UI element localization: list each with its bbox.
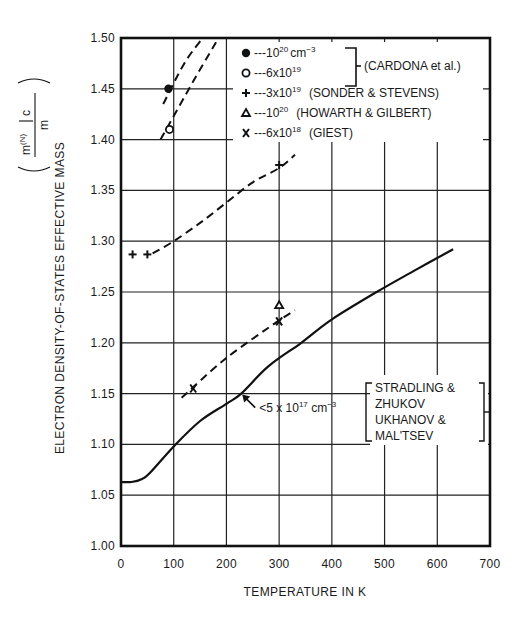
x-tick-labels: 0100200300400500600700 [118,557,501,571]
y-tick-label: 1.40 [90,133,115,147]
y-axis-title: ELECTRON DENSITY-OF-STATES EFFECTIVE MAS… [53,142,67,454]
filled-circle-marker [242,49,250,57]
x-tick-label: 100 [163,557,184,571]
y-tick-label: 1.50 [90,31,115,45]
legend-group-label: (CARDONA et al.) [364,59,461,73]
y-tick-label: 1.20 [90,336,115,350]
effective-mass-chart: 0100200300400500600700 1.001.051.101.151… [0,0,524,625]
x-tick-label: 0 [118,557,125,571]
plus-marker [143,250,151,258]
open-circle-marker [242,69,249,76]
y-axis-formula: m(N)cm [18,79,51,171]
author-line: MAL'TSEV [375,429,433,443]
author-line: ZHUKOV [375,397,425,411]
formula-numerator: m(N) [18,134,33,155]
y-tick-label: 1.30 [90,234,115,248]
y-tick-label: 1.35 [90,183,115,197]
plus-marker [275,161,283,169]
left-paren [18,167,50,171]
svg-text:ELECTRON DENSITY-OF-STATES EFF: ELECTRON DENSITY-OF-STATES EFFECTIVE MAS… [53,142,67,454]
author-line: UKHANOV & [375,413,446,427]
filled-circle-marker [164,85,172,93]
y-tick-label: 1.00 [90,539,115,553]
formula-group: m(N)cm [18,79,51,171]
x-tick-label: 500 [374,557,395,571]
x-tick-label: 700 [480,557,501,571]
author-line: STRADLING & [375,381,455,395]
y-tick-label: 1.45 [90,82,115,96]
legend-entry-text: ---3x1019(SONDER & STEVENS) [254,85,439,100]
triangle-marker [275,301,283,308]
concentration-annotation: <5 x 1017 cm−3 [242,395,337,415]
right-paren [18,79,50,83]
y-tick-label: 1.05 [90,488,115,502]
y-tick-label: 1.15 [90,387,115,401]
x-tick-label: 300 [269,557,290,571]
annotation-text: <5 x 1017 cm−3 [259,400,337,415]
formula-denominator: m [37,120,51,130]
x-tick-label: 200 [216,557,237,571]
x-axis-title: TEMPERATURE IN K [244,585,367,599]
open-circle-marker [166,126,173,133]
plus-marker [129,250,137,258]
dashed-fit-curve [163,38,203,104]
y-tick-label: 1.10 [90,437,115,451]
x-tick-label: 600 [427,557,448,571]
solid-curve [121,249,453,482]
x-tick-label: 400 [321,557,342,571]
y-tick-label: 1.25 [90,285,115,299]
formula-subscript: c [19,110,33,116]
y-tick-labels: 1.001.051.101.151.201.251.301.351.401.45… [90,31,115,553]
